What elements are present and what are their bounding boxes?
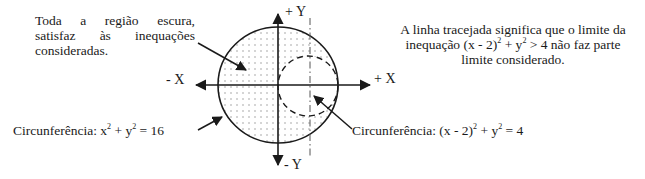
small-circle-label-mid: + y [477,123,498,138]
region-note: Toda a região escura, satisfaz às inequa… [35,13,195,58]
dashed-note-line-2-suffix: > 4 não faz parte [526,37,620,52]
dashed-note-line-2-prefix: inequação (x - 2) [405,37,497,52]
big-circle-label: Circunferência: x2 + y2 = 16 [13,123,164,138]
axis-label-pos-y: + Y [285,4,306,19]
big-circle-label-prefix: Circunferência: x [13,123,107,138]
dashed-note-line-2: inequação (x - 2)2 + y2 > 4 não faz part… [388,37,638,52]
small-circle-label: Circunferência: (x - 2)2 + y2 = 4 [352,123,523,138]
small-circle-label-prefix: Circunferência: (x - 2) [352,123,473,138]
axis-label-neg-x: - X [166,72,184,87]
region-note-line-2: satisfaz às inequações [35,28,195,43]
axis-label-neg-y: - Y [284,157,302,172]
region-note-line-3: consideradas. [35,43,195,58]
big-circle-label-mid: + y [111,123,132,138]
dashed-note-line-2-mid: + y [501,37,522,52]
dashed-line-note: A linha tracejada significa que o limite… [388,22,638,67]
axis-label-pos-x: + X [374,71,396,86]
dashed-note-line-1: A linha tracejada significa que o limite… [388,22,638,37]
region-note-line-1: Toda a região escura, [35,13,195,28]
small-circle-label-suffix: = 4 [502,123,523,138]
dashed-note-line-3: limite considerado. [388,52,638,67]
big-circle-label-suffix: = 16 [136,123,164,138]
